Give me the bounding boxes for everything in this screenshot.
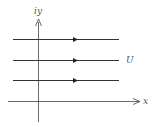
y-axis-label: iy [34, 6, 43, 16]
streamline [13, 37, 119, 42]
flow-arrow-icon [73, 37, 78, 42]
x-axis-label: x [143, 96, 148, 106]
streamline [13, 78, 119, 83]
diagram-canvas: iy x U [0, 0, 160, 127]
flow-arrow-icon [73, 78, 78, 83]
streamline [13, 58, 119, 63]
flow-velocity-label: U [126, 55, 134, 65]
flow-arrow-icon [73, 58, 78, 63]
uniform-flow-diagram: iy x U [0, 0, 160, 127]
